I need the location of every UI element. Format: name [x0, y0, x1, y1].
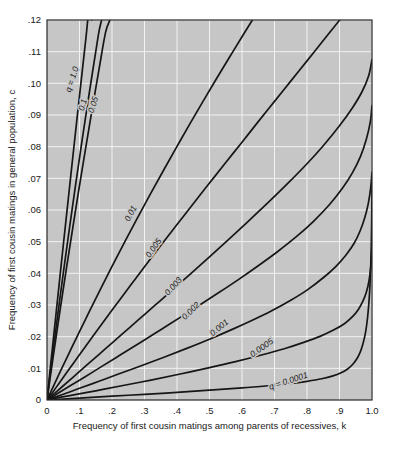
x-tick-label: .9 [336, 405, 344, 416]
y-tick-label: .11 [28, 46, 41, 57]
x-tick-label: .3 [141, 405, 149, 416]
y-tick-label: .05 [28, 236, 41, 247]
y-tick-label: .09 [28, 109, 41, 120]
y-tick-label: .01 [28, 363, 41, 374]
y-tick-label: .12 [28, 14, 41, 25]
y-tick-label: .02 [28, 331, 41, 342]
x-axis-title: Frequency of first cousin matings among … [73, 420, 347, 431]
x-tick-label: .4 [173, 405, 181, 416]
x-tick-label: .7 [271, 405, 279, 416]
y-axis-title: Frequency of first cousin matings in gen… [6, 90, 17, 331]
x-tick-label: .8 [303, 405, 311, 416]
y-tick-label: .07 [28, 173, 41, 184]
y-tick-label: .04 [28, 268, 41, 279]
x-tick-label: .1 [76, 405, 84, 416]
chart-figure: 0.1.2.3.4.5.6.7.8.91.0 0.01.02.03.04.05.… [0, 0, 397, 450]
x-tick-label: .5 [206, 405, 214, 416]
x-tick-label: .2 [108, 405, 116, 416]
contour-chart: 0.1.2.3.4.5.6.7.8.91.0 0.01.02.03.04.05.… [0, 0, 397, 450]
x-tick-label: 1.0 [365, 405, 378, 416]
y-tick-label: 0 [36, 394, 41, 405]
y-tick-label: .08 [28, 141, 41, 152]
y-tick-label: .03 [28, 299, 41, 310]
y-tick-label: .10 [28, 78, 41, 89]
x-tick-label: .6 [238, 405, 246, 416]
x-tick-label: 0 [44, 405, 49, 416]
y-tick-label: .06 [28, 204, 41, 215]
